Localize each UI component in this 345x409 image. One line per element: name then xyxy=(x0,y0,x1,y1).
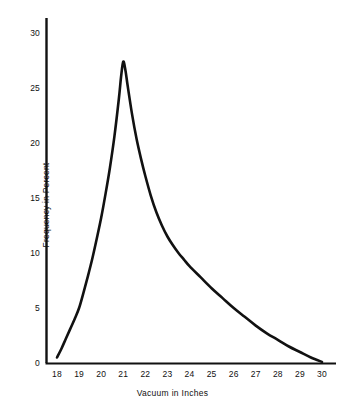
x-tick-20: 20 xyxy=(96,369,106,379)
x-tick-28: 28 xyxy=(273,369,283,379)
y-tick-15: 15 xyxy=(16,193,40,203)
axis-lines xyxy=(46,18,337,364)
x-tick-30: 30 xyxy=(317,369,327,379)
y-tick-25: 25 xyxy=(16,83,40,93)
y-tick-10: 10 xyxy=(16,248,40,258)
chart-container: 051015202530 18192021222324252627282930 … xyxy=(0,0,345,409)
x-tick-21: 21 xyxy=(118,369,128,379)
x-tick-23: 23 xyxy=(162,369,172,379)
x-tick-19: 19 xyxy=(74,369,84,379)
y-tick-30: 30 xyxy=(16,28,40,38)
y-axis-title: Frequency in Percent xyxy=(41,162,51,247)
x-axis-title: Vacuum in Inches xyxy=(0,388,345,398)
x-tick-25: 25 xyxy=(207,369,217,379)
x-tick-22: 22 xyxy=(140,369,150,379)
x-tick-29: 29 xyxy=(295,369,305,379)
x-tick-18: 18 xyxy=(52,369,62,379)
x-tick-27: 27 xyxy=(251,369,261,379)
data-series-line xyxy=(57,61,322,361)
x-tick-24: 24 xyxy=(185,369,195,379)
x-tick-26: 26 xyxy=(229,369,239,379)
y-tick-5: 5 xyxy=(16,303,40,313)
y-tick-0: 0 xyxy=(16,358,40,368)
y-tick-20: 20 xyxy=(16,138,40,148)
chart-plot-area xyxy=(0,0,345,409)
